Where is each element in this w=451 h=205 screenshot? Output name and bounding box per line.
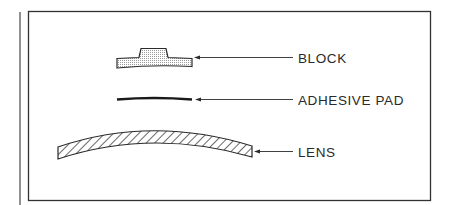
adhesive-pad-arrowhead-icon — [195, 98, 201, 102]
label-lens: LENS — [298, 145, 336, 160]
label-adhesive-pad: ADHESIVE PAD — [298, 93, 404, 108]
block-arrowhead-icon — [194, 56, 200, 60]
lens-blocking-diagram: BLOCK ADHESIVE PAD LENS — [0, 0, 451, 205]
label-block: BLOCK — [298, 51, 347, 66]
lens-shape — [58, 131, 252, 159]
adhesive-pad-shape — [117, 98, 192, 100]
lens-arrowhead-icon — [254, 150, 260, 154]
block-shape — [117, 49, 192, 69]
